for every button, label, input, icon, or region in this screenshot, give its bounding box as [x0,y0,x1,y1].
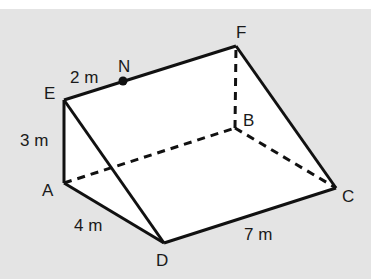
vertex-label-C: C [342,187,354,206]
point-label-N: N [118,57,130,76]
prism-figure: E A D C F B N 2 m 3 m 4 m 7 m [0,0,371,279]
measure-label-EN: 2 m [70,68,98,87]
point-N-marker [119,77,128,86]
vertex-label-E: E [44,84,55,103]
vertex-label-B: B [243,111,254,130]
measure-label-DC: 7 m [244,225,272,244]
prism-diagram: E A D C F B N 2 m 3 m 4 m 7 m [0,0,371,279]
vertex-label-A: A [42,181,54,200]
vertex-label-D: D [156,251,168,270]
measure-label-AD: 4 m [74,216,102,235]
vertex-label-F: F [236,23,246,42]
measure-label-AE: 3 m [20,131,48,150]
